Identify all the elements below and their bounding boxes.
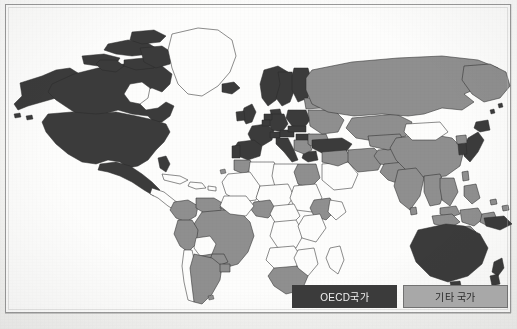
region-mexico	[98, 162, 160, 196]
region-japan	[464, 132, 484, 162]
region-russia-far-east	[462, 64, 510, 102]
region-japan-hokkaido	[474, 120, 490, 132]
region-uruguay	[220, 264, 230, 272]
region-poland	[286, 110, 310, 128]
region-australia	[410, 224, 488, 282]
region-sri-lanka	[410, 207, 417, 215]
region-aleutian-arc	[14, 113, 33, 120]
region-czech-slovakia	[288, 126, 306, 132]
world-map-svg	[12, 10, 516, 317]
region-ireland	[236, 111, 245, 121]
region-vietnam-laos	[440, 178, 458, 206]
region-philippines	[464, 184, 480, 204]
region-united-states	[42, 112, 170, 168]
region-hispaniola	[188, 182, 206, 189]
region-colombia	[170, 200, 198, 222]
region-puerto-rico	[208, 186, 216, 191]
region-borneo	[460, 208, 484, 226]
region-portugal	[232, 145, 240, 158]
region-belgium	[262, 120, 270, 126]
region-somalia	[328, 200, 346, 220]
region-iceland	[222, 82, 240, 94]
region-atlantic-islets	[220, 169, 226, 174]
legend-item-oecd[interactable]: OECD국가	[292, 285, 397, 308]
region-pacific-islands	[490, 199, 509, 211]
region-madagascar	[326, 246, 344, 274]
figure-container: OECD국가 기타 국가	[0, 0, 517, 329]
region-kuril-islands	[490, 103, 503, 114]
region-india	[394, 168, 424, 210]
region-kenya-tanzania	[298, 214, 326, 242]
region-north-korea	[456, 135, 467, 144]
region-south-atlantic-islets	[208, 295, 214, 300]
world-map-canvas	[12, 10, 516, 317]
region-switzerland	[270, 132, 280, 138]
legend-label-other: 기타 국가	[435, 289, 475, 304]
legend-label-oecd: OECD국가	[320, 289, 369, 304]
region-netherlands	[264, 114, 272, 120]
legend-item-other[interactable]: 기타 국가	[403, 285, 508, 308]
region-florida	[158, 156, 170, 172]
region-cuba	[162, 174, 188, 184]
map-legend: OECD국가 기타 국가	[292, 285, 508, 308]
region-ellesmere	[130, 30, 166, 44]
region-taiwan	[462, 171, 469, 181]
region-south-korea	[458, 143, 467, 155]
region-new-zealand	[490, 258, 504, 286]
map-frame: OECD국가 기타 국가	[5, 4, 511, 313]
region-papua-new-guinea	[484, 216, 512, 230]
